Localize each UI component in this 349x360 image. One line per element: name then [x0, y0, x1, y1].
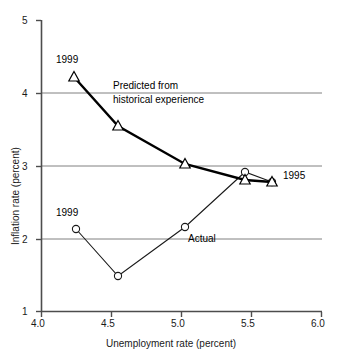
x-tick-label-6-0: 6.0 — [311, 318, 325, 329]
x-axis-ticks — [42, 312, 322, 317]
predicted-label-line2: historical experience — [113, 94, 204, 106]
x-axis-title: Unemployment rate (percent) — [106, 338, 236, 349]
y-axis-ticks — [36, 21, 41, 312]
predicted-label-line1: Predicted from — [113, 80, 178, 92]
y-tick-label-1: 1 — [22, 306, 28, 317]
y-tick-label-2: 2 — [22, 234, 28, 245]
x-tick-label-4-0: 4.0 — [31, 318, 45, 329]
series-actual — [72, 168, 275, 279]
y-tick-label-3: 3 — [22, 161, 28, 172]
x-tick-label-4-5: 4.5 — [101, 318, 115, 329]
predicted-marker — [69, 72, 79, 82]
y-tick-label-4: 4 — [22, 88, 28, 99]
y-axis-title: Inflation rate (percent) — [10, 147, 21, 245]
actual-marker — [181, 223, 188, 230]
predicted-start-year-label: 1999 — [56, 54, 78, 66]
actual-label: Actual — [188, 233, 216, 245]
actual-line — [76, 172, 272, 276]
x-tick-label-5-0: 5.0 — [171, 318, 185, 329]
inflation-unemployment-chart: 5 4 3 2 1 4.0 4.5 5.0 5.5 6.0 Inflation … — [0, 0, 349, 360]
actual-marker — [114, 272, 121, 279]
x-tick-label-5-5: 5.5 — [241, 318, 255, 329]
predicted-end-year-label: 1995 — [283, 170, 305, 182]
actual-marker — [72, 225, 79, 232]
actual-start-year-label: 1999 — [56, 207, 78, 219]
y-tick-label-5: 5 — [22, 15, 28, 26]
